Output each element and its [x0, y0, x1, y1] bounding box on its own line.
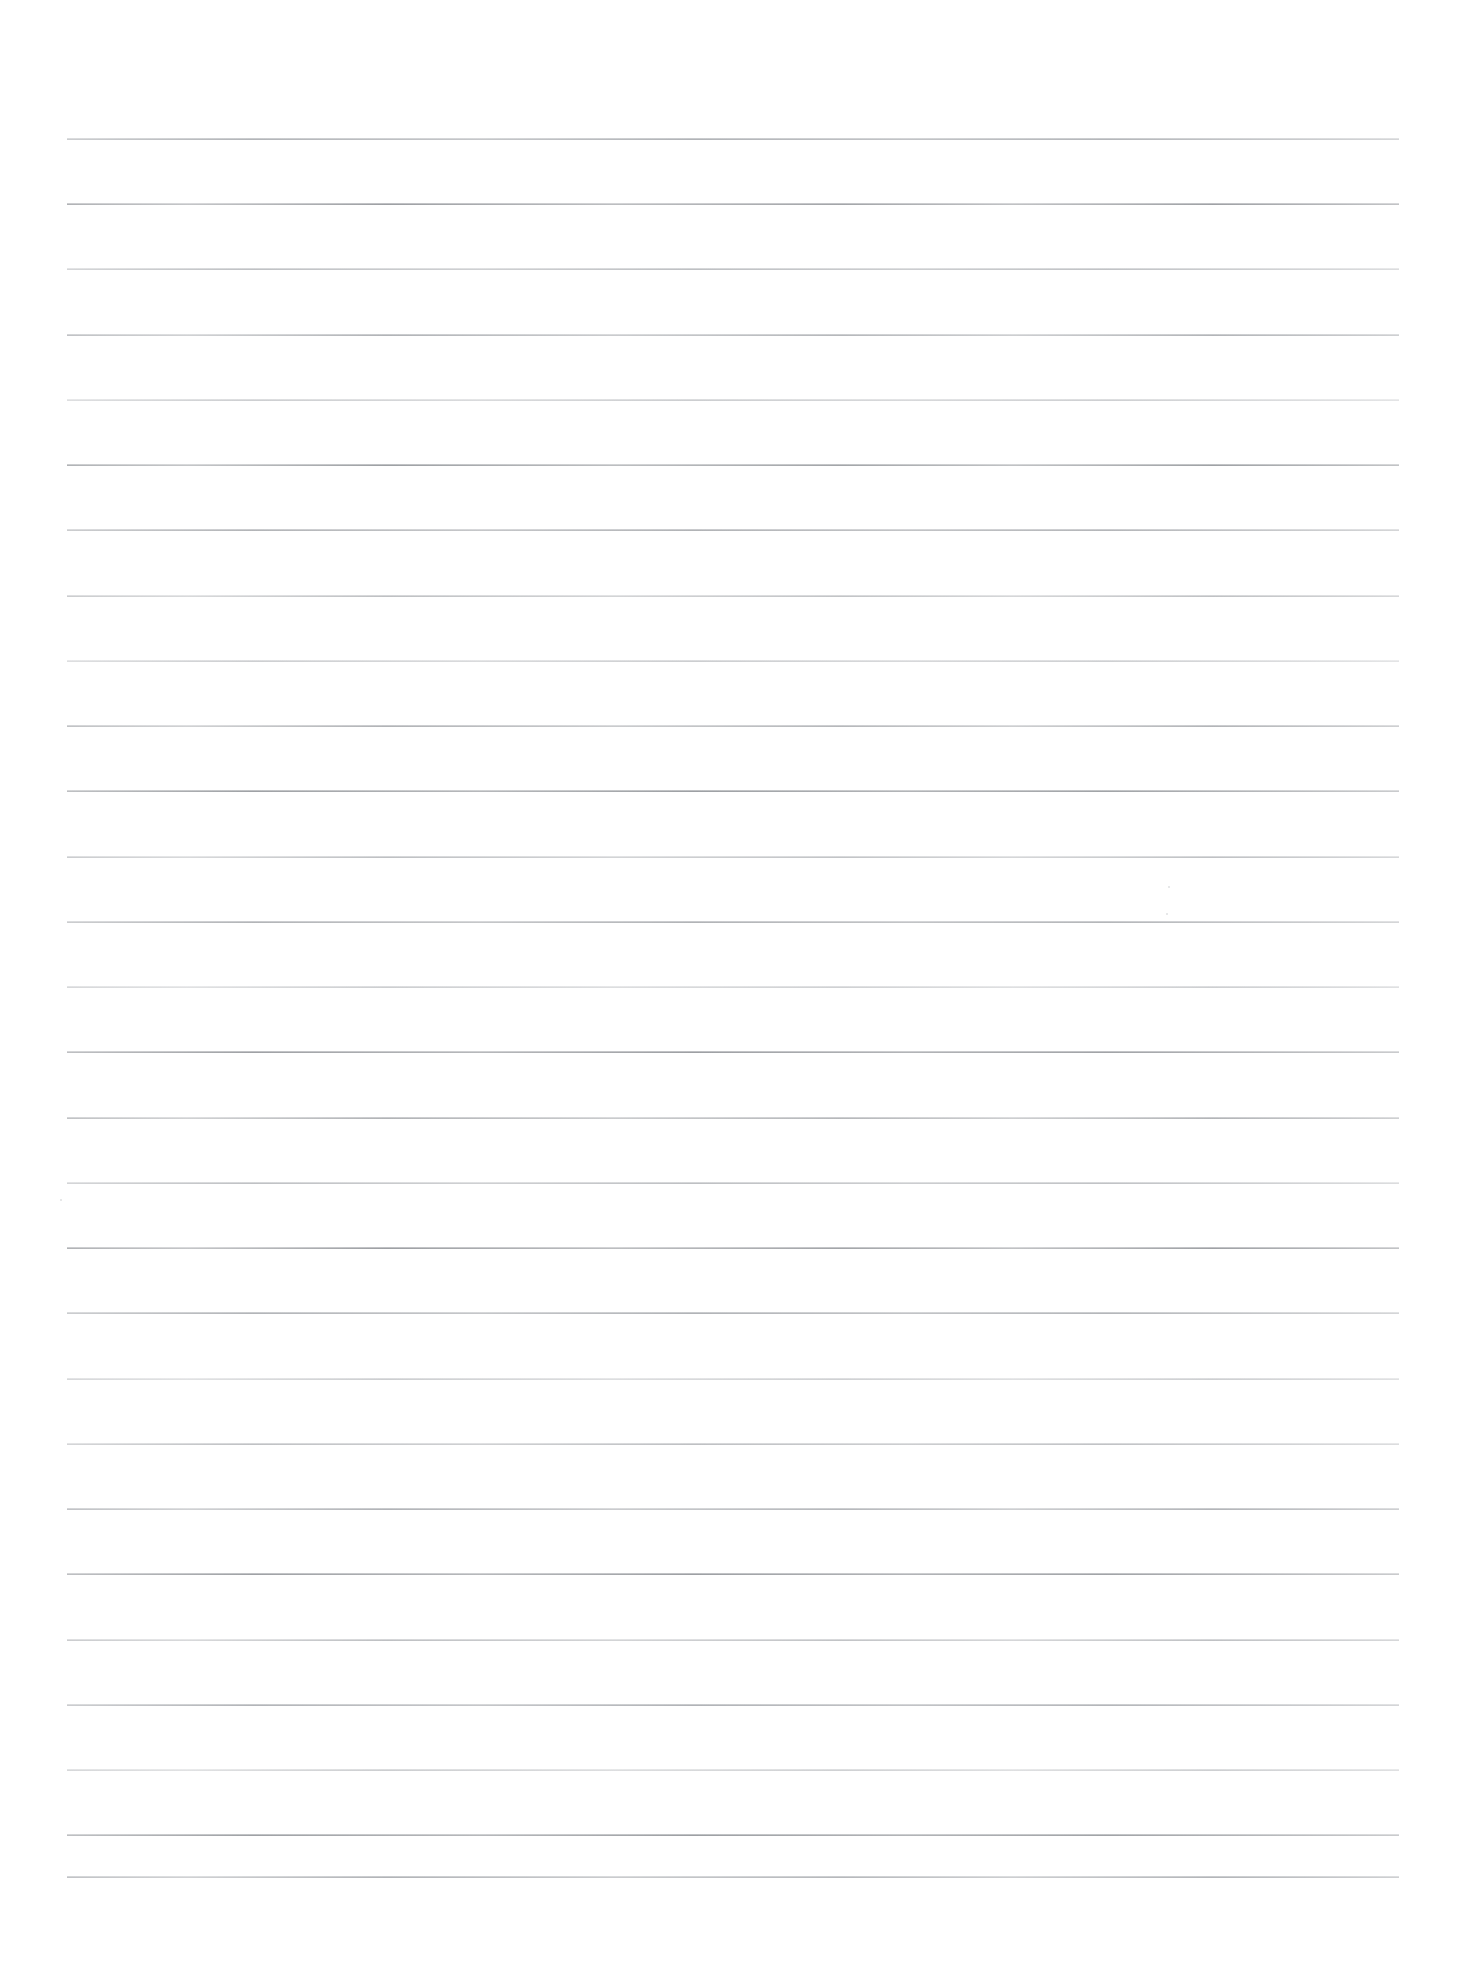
- rule-line-28: [67, 1876, 1399, 1878]
- rule-line-12: [67, 856, 1399, 858]
- rule-line-8: [67, 595, 1399, 597]
- rule-line-6: [67, 464, 1399, 466]
- rule-line-22: [67, 1508, 1399, 1510]
- rule-line-27: [67, 1834, 1399, 1836]
- scan-speck-3: [60, 1199, 62, 1201]
- rule-line-13: [67, 921, 1399, 923]
- scan-speck-1: [1168, 886, 1170, 888]
- rule-line-3: [67, 268, 1399, 270]
- scan-speck-2: [1166, 913, 1168, 915]
- rule-line-16: [67, 1117, 1399, 1119]
- rule-line-24: [67, 1639, 1399, 1641]
- rule-line-5: [67, 399, 1399, 401]
- rule-line-9: [67, 660, 1399, 662]
- rule-line-21: [67, 1443, 1399, 1445]
- rule-line-1: [67, 138, 1399, 140]
- rule-line-11: [67, 790, 1399, 792]
- rule-line-20: [67, 1378, 1399, 1380]
- scanned-page: [0, 0, 1464, 1969]
- rule-line-18: [67, 1247, 1399, 1249]
- rule-line-23: [67, 1573, 1399, 1575]
- rule-line-4: [67, 334, 1399, 336]
- rule-line-15: [67, 1051, 1399, 1053]
- rule-lines-layer: [0, 0, 1464, 1969]
- rule-line-25: [67, 1704, 1399, 1706]
- rule-line-10: [67, 725, 1399, 727]
- rule-line-2: [67, 203, 1399, 205]
- rule-line-17: [67, 1182, 1399, 1184]
- rule-line-14: [67, 986, 1399, 988]
- rule-line-7: [67, 529, 1399, 531]
- rule-line-26: [67, 1769, 1399, 1771]
- rule-line-19: [67, 1312, 1399, 1314]
